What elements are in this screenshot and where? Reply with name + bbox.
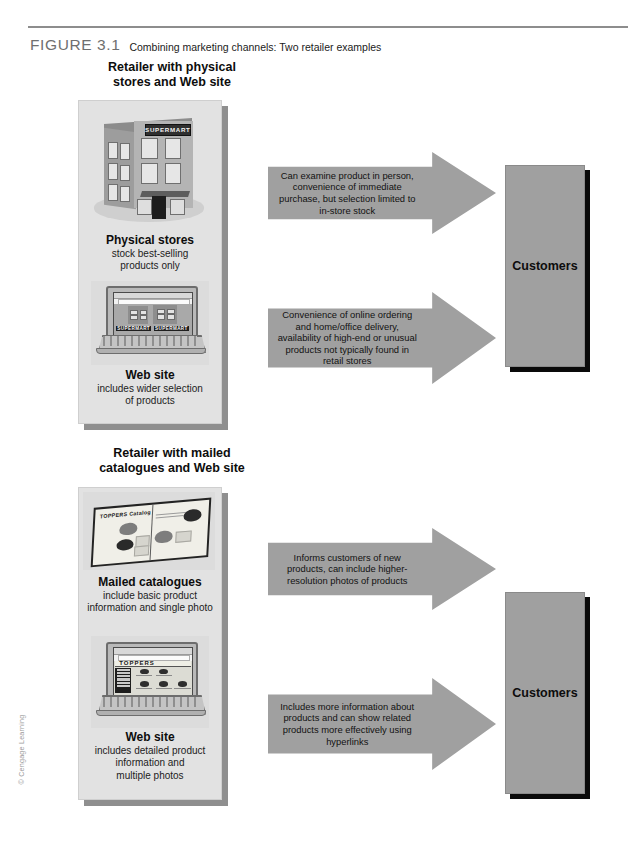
laptop-supermart-website-illustration: SUPERMART SUPERMART [91,281,209,365]
section-1-heading-line1: Retailer with physical [62,60,282,75]
website-sign-left: SUPERMART [116,326,151,331]
toppers-site-header: TOPPERS [115,661,190,667]
store-sign: SUPERMART [145,124,191,136]
figure-number: FIGURE 3.1 [30,36,120,54]
arrow-web-site-to-customers-1: Convenience of online ordering and home/… [268,292,496,384]
arrow-label: Can examine product in person, convenien… [272,152,422,234]
customers-label: Customers [512,686,577,700]
arrow-label: Includes more information about products… [272,678,422,770]
section-2-heading-line1: Retailer with mailed [62,446,282,461]
header-divider [28,26,628,28]
channel-caption-mailed-catalogues: Mailed catalogues include basic product … [79,576,221,615]
section-2-heading-line2: catalogues and Web site [62,461,282,476]
toppers-site-header-label: TOPPERS [119,660,155,666]
channel-caption-physical-stores: Physical stores stock best-selling produ… [79,234,221,273]
section-2-channel-panel: TOPPERS Catalog Mailed catalogues includ… [78,487,222,800]
section-1-channel-panel: SUPERMART Physical stores stock best-sel… [78,100,222,424]
catalogue-illustration: TOPPERS Catalog [83,492,215,570]
store-sign-label: SUPERMART [145,126,191,133]
channel-title: Physical stores [79,234,221,247]
channel-subtitle-line1: includes detailed product [79,745,221,758]
store-building-illustration: SUPERMART [83,105,215,229]
section-2-heading: Retailer with mailed catalogues and Web … [62,446,282,475]
channel-subtitle-line2: information and [79,757,221,770]
arrow-label: Informs customers of new products, can i… [272,528,422,610]
channel-subtitle-line2: information and single photo [79,602,221,615]
figure-title: Combining marketing channels: Two retail… [129,41,381,54]
channel-subtitle-line2: of products [79,395,221,408]
figure-caption: FIGURE 3.1 Combining marketing channels:… [30,36,590,54]
customers-label: Customers [512,259,577,273]
arrow-label: Convenience of online ordering and home/… [272,292,422,384]
section-1-heading-line2: stores and Web site [62,75,282,90]
channel-subtitle-line1: includes wider selection [79,383,221,396]
website-sign-right: SUPERMART [154,326,189,331]
website-sign-left-label: SUPERMART [117,326,150,331]
customers-box-1: Customers [505,165,585,367]
section-1-heading: Retailer with physical stores and Web si… [62,60,282,89]
catalogue-title: TOPPERS Catalog [100,509,152,520]
channel-subtitle-line1: stock best-selling [79,248,221,261]
arrow-web-site-to-customers-2: Includes more information about products… [268,678,496,770]
channel-title: Web site [79,369,221,382]
copyright-notice: © Cengage Learning [17,705,26,795]
channel-subtitle-line3: multiple photos [79,770,221,783]
channel-caption-web-site-1: Web site includes wider selection of pro… [79,369,221,408]
customers-box-2: Customers [505,592,585,794]
arrow-physical-stores-to-customers: Can examine product in person, convenien… [268,152,496,234]
channel-caption-web-site-2: Web site includes detailed product infor… [79,731,221,782]
laptop-toppers-website-illustration: TOPPERS [91,636,209,728]
channel-subtitle-line1: include basic product [79,590,221,603]
channel-subtitle-line2: products only [79,260,221,273]
website-sign-right-label: SUPERMART [155,326,188,331]
catalogue-title-label: TOPPERS Catalog [100,509,152,520]
arrow-mailed-catalogues-to-customers: Informs customers of new products, can i… [268,528,496,610]
channel-title: Web site [79,731,221,744]
channel-title: Mailed catalogues [79,576,221,589]
